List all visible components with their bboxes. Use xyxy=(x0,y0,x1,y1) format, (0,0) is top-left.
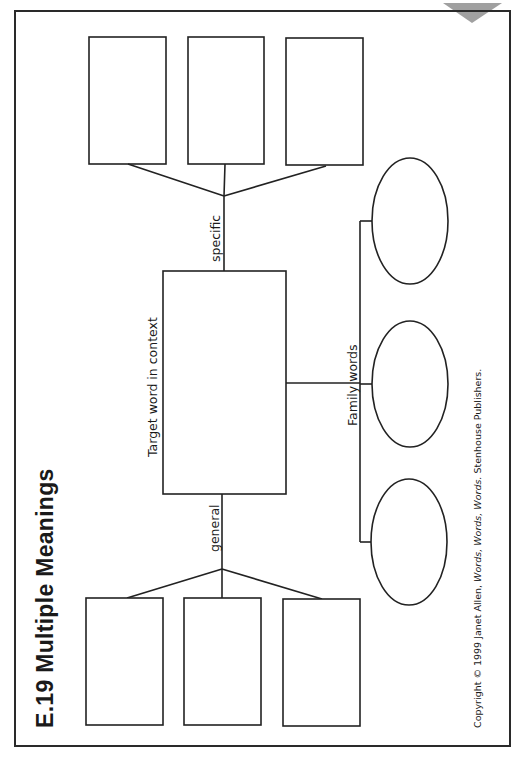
family-words-label: Family words xyxy=(345,345,360,426)
general-connector xyxy=(222,569,322,599)
page-title: E.19 Multiple Meanings xyxy=(32,468,59,728)
copyright-notice: Copyright © 1999 Janet Allen, Words, Wor… xyxy=(472,369,483,728)
specific-connector xyxy=(224,164,225,196)
specific-connector xyxy=(224,166,326,196)
specific-meaning-box-2[interactable] xyxy=(188,37,264,164)
corner-marker-icon xyxy=(443,3,502,23)
specific-meaning-box-1[interactable] xyxy=(89,37,166,164)
general-connector xyxy=(127,569,222,598)
copyright-suffix: Stenhouse Publishers. xyxy=(472,369,483,477)
general-label: general xyxy=(207,504,222,552)
target-word-label: Target word in context xyxy=(145,317,160,457)
copyright-book-title: Words, Words, Words. xyxy=(472,477,483,582)
general-meaning-box-2[interactable] xyxy=(184,598,261,725)
multiple-meanings-diagram xyxy=(0,0,523,766)
family-word-oval-3[interactable] xyxy=(371,479,447,605)
specific-connector xyxy=(128,164,224,196)
general-meaning-box-3[interactable] xyxy=(283,599,360,726)
specific-label: specific xyxy=(208,215,223,262)
family-word-oval-2[interactable] xyxy=(372,321,448,447)
copyright-prefix: Copyright © 1999 Janet Allen, xyxy=(472,582,483,728)
target-word-box[interactable] xyxy=(163,271,286,494)
specific-meaning-box-3[interactable] xyxy=(286,38,363,165)
family-word-oval-1[interactable] xyxy=(372,158,448,284)
general-meaning-box-1[interactable] xyxy=(86,598,163,725)
